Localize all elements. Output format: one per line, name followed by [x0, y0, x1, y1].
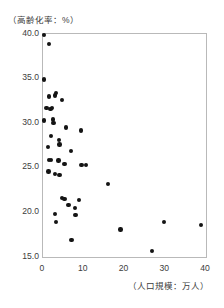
scatter-point: [66, 203, 70, 207]
scatter-point: [51, 121, 55, 125]
scatter-point: [49, 158, 53, 162]
x-axis-tick: 10: [68, 264, 98, 273]
scatter-point: [64, 125, 68, 129]
scatter-point: [57, 173, 61, 177]
x-axis-tick: 40: [190, 264, 220, 273]
scatter-chart-figure: （高齢化率：%） 40.035.030.025.020.015.0 010203…: [0, 0, 224, 308]
scatter-point: [79, 128, 83, 132]
plot-area: [42, 33, 207, 258]
y-axis-tick: 30.0: [5, 118, 39, 127]
y-axis-tick: 35.0: [5, 73, 39, 82]
y-axis-tick: 40.0: [5, 29, 39, 38]
scatter-point: [118, 227, 122, 231]
scatter-point: [106, 182, 110, 186]
scatter-point: [46, 145, 50, 149]
scatter-point: [50, 106, 54, 110]
scatter-point: [69, 149, 73, 153]
scatter-point: [42, 118, 46, 122]
scatter-point: [62, 162, 66, 166]
scatter-point: [150, 249, 154, 253]
scatter-point: [199, 223, 203, 227]
y-axis-tick: 20.0: [5, 207, 39, 216]
scatter-point: [46, 169, 50, 173]
x-axis-tick: 20: [109, 264, 139, 273]
scatter-point: [49, 134, 53, 138]
scatter-point: [162, 220, 166, 224]
scatter-point: [47, 42, 51, 46]
x-axis-tick: 30: [149, 264, 179, 273]
scatter-point: [42, 33, 46, 37]
x-axis-tick-labels: 010203040: [42, 264, 207, 276]
y-axis-tick: 15.0: [5, 252, 39, 261]
scatter-point: [56, 158, 60, 162]
scatter-point: [77, 198, 81, 202]
scatter-point: [73, 206, 77, 210]
scatter-point: [53, 212, 57, 216]
scatter-point: [42, 77, 46, 81]
scatter-point: [54, 91, 58, 95]
scatter-point: [47, 94, 51, 98]
scatter-point: [79, 163, 83, 167]
scatter-point: [54, 220, 58, 224]
scatter-point: [69, 238, 73, 242]
y-axis-label: （高齢化率：%）: [8, 13, 79, 25]
x-axis-label: （人口規模：万人）: [128, 279, 209, 291]
y-axis-tick-labels: 40.035.030.025.020.015.0: [2, 33, 39, 258]
scatter-point: [73, 213, 77, 217]
scatter-point: [84, 163, 88, 167]
scatter-point: [60, 98, 64, 102]
scatter-point: [62, 197, 66, 201]
y-axis-tick: 25.0: [5, 162, 39, 171]
x-axis-tick: 0: [27, 264, 57, 273]
scatter-point: [57, 142, 61, 146]
